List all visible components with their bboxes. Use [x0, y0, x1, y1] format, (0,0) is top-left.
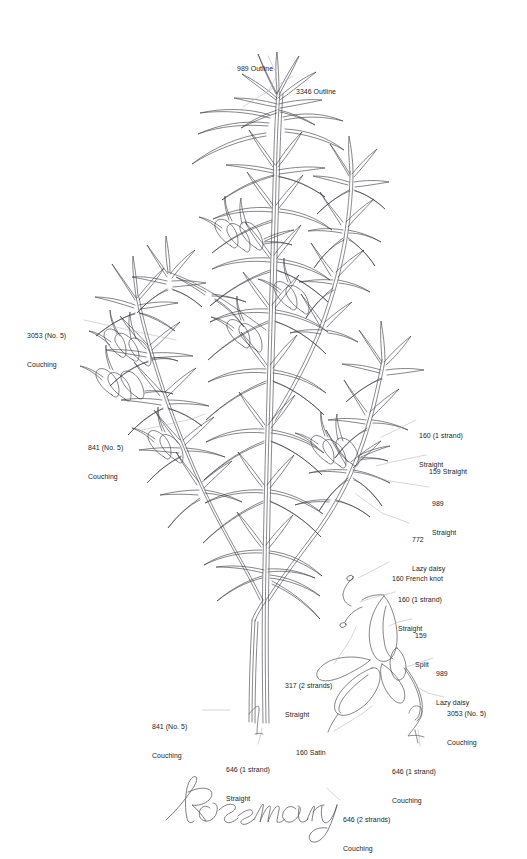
annotation-317-straight: 317 (2 strands) Straight [285, 662, 332, 739]
stem-base [249, 600, 266, 723]
annotation-line-1: 3346 Outline [296, 87, 336, 97]
leader-line-646-1strand-couching [418, 730, 420, 746]
annotation-line-1: 160 (1 strand) [419, 431, 463, 441]
annotation-line-1: 646 (1 strand) [226, 765, 270, 775]
annotation-line-2: Couching [27, 360, 66, 370]
annotation-160-satin: 160 Satin [296, 729, 326, 777]
leader-line-160-french-knot [358, 562, 389, 578]
annotation-646-couching-2: 646 (2 strands) Couching [343, 796, 390, 859]
leader-line-646-1strand-straight [258, 728, 262, 744]
leader-line-646-2strands-couching [327, 788, 340, 800]
annotation-line-2: Couching [447, 738, 486, 748]
right-branch-foliage [295, 321, 424, 517]
figure-numeral-2 [408, 706, 424, 743]
annotation-646-couching-1: 646 (1 strand) Couching [392, 748, 436, 825]
annotation-line-2: Split [415, 660, 429, 670]
annotation-3346-outline: 3346 Outline [296, 68, 336, 116]
leaf-whorl-mid-stem [203, 222, 330, 576]
leader-line-160-1strand-straight-detail [360, 592, 395, 602]
leader-line-772-lazy-daisy [356, 494, 409, 523]
annotation-line-1: 841 (No. 5) [152, 722, 187, 732]
annotation-line-1: 646 (2 strands) [343, 815, 390, 825]
annotation-159-split: 159 Split [415, 612, 429, 689]
pattern-sheet: 989 Outline 3346 Outline 3053 (No. 5) Co… [0, 0, 527, 859]
annotation-line-1: 317 (2 strands) [285, 681, 332, 691]
annotation-line-1: 159 Straight [429, 467, 467, 477]
annotation-line-1: 989 [436, 669, 469, 679]
figure-numeral-1 [249, 706, 263, 734]
figure-numerals [249, 706, 424, 743]
bud-cluster-mid-upper [199, 196, 294, 252]
annotation-989-outline: 989 Outline [237, 45, 273, 93]
annotation-line-2: Straight [285, 710, 332, 720]
annotation-841-couching-lower: 841 (No. 5) Couching [152, 703, 187, 780]
annotation-3053-couching-detail: 3053 (No. 5) Couching [447, 690, 486, 767]
bud-cluster-mid [211, 296, 262, 352]
annotation-line-1: 989 Outline [237, 64, 273, 74]
annotation-line-2: Couching [343, 844, 390, 854]
annotation-line-1: 646 (1 strand) [392, 767, 436, 777]
annotation-line-1: 772 [412, 535, 445, 545]
annotation-841-couching-upper: 841 (No. 5) Couching [88, 424, 123, 501]
annotation-line-1: 3053 (No. 5) [27, 331, 66, 341]
annotation-line-1: 3053 (No. 5) [447, 709, 486, 719]
annotation-line-1: 160 (1 strand) [398, 595, 442, 605]
leaf-sweep-upper-right [283, 114, 344, 150]
annotation-3053-couching-upper: 3053 (No. 5) Couching [27, 312, 66, 389]
leader-line-160-satin [334, 706, 372, 731]
base-foliage [216, 566, 320, 619]
annotation-line-2: Couching [392, 796, 436, 806]
annotation-line-1: 841 (No. 5) [88, 443, 123, 453]
annotation-646-straight: 646 (1 strand) Straight [226, 746, 270, 823]
annotation-line-1: 160 Satin [296, 748, 326, 758]
annotation-line-1: 989 [432, 499, 456, 509]
main-stem [262, 92, 283, 723]
right-branch [266, 360, 385, 601]
annotation-line-1: 159 [415, 631, 429, 641]
annotation-line-2: Couching [88, 472, 123, 482]
annotation-line-2: Couching [152, 751, 187, 761]
annotation-line-2: Straight [226, 794, 270, 804]
